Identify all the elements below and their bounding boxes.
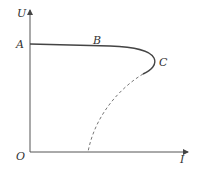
- point-a-label: A: [15, 38, 24, 51]
- u-i-diagram: U I O A B C: [0, 0, 199, 172]
- origin-label: O: [16, 150, 25, 163]
- solid-curve-a-b-c: [30, 44, 155, 74]
- i-axis-label: I: [179, 153, 185, 166]
- point-b-label: B: [92, 34, 101, 47]
- u-axis-label: U: [17, 7, 27, 20]
- point-c-label: C: [159, 56, 168, 69]
- dashed-curve: [88, 74, 143, 152]
